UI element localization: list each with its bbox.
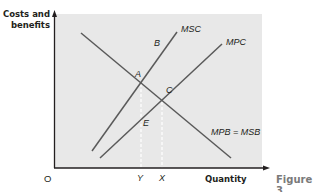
x-axis-arrow-icon [263,166,270,171]
msc-label: MSC [181,24,201,34]
point-b-label: B [154,38,160,48]
y-axis-label: Costs and benefits [2,9,50,31]
point-c-label: C [166,85,173,95]
x-axis-label: Quantity [205,174,247,184]
figure-caption: Figure 3 [276,174,317,192]
y-axis-arrow-icon [52,10,57,17]
tick-y-label: Y [137,173,143,183]
point-e-label: E [143,118,149,128]
point-a-label: A [135,69,141,79]
origin-label: O [44,173,51,184]
mpb-msb-label: MPB = MSB [211,127,260,137]
tick-x-label: X [159,173,165,183]
mpc-label: MPC [226,37,246,47]
